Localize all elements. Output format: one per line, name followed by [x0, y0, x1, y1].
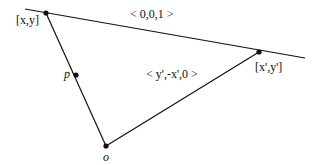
diagram-lines: [0, 0, 323, 165]
segment-o-to-xy: [46, 13, 106, 146]
label-point-o: o: [103, 151, 109, 163]
label-point-xy-prime: [x',y']: [255, 61, 282, 73]
label-vector-normal: < 0,0,1 >: [130, 8, 174, 20]
label-point-xy: [x,y]: [16, 14, 39, 26]
label-vector-diag: < y',-x',0 >: [146, 68, 198, 80]
point-xy-prime-dot: [256, 49, 261, 54]
label-point-p: p: [64, 68, 70, 80]
diagram-canvas: [x,y] < 0,0,1 > [x',y'] < y',-x',0 > p o: [0, 0, 323, 165]
point-xy-dot: [43, 10, 48, 15]
point-o-dot: [103, 143, 108, 148]
point-p-dot: [73, 72, 78, 77]
